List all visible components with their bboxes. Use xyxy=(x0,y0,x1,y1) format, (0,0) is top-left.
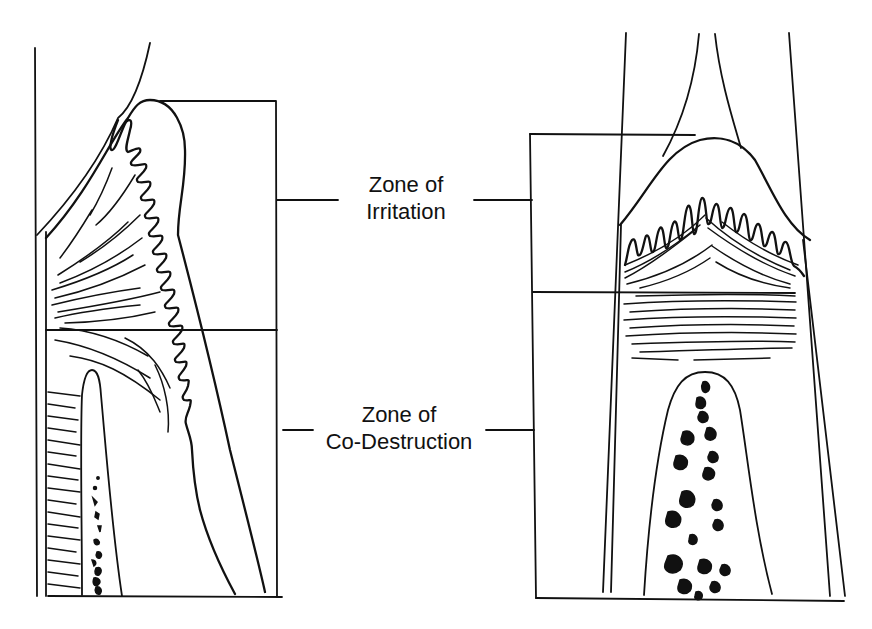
label-zone-of-codestruction: Zone of Co-Destruction xyxy=(326,401,473,455)
right-baseline xyxy=(536,598,844,601)
right-crestal-fibers xyxy=(624,295,796,361)
label-zone-of-irritation: Zone of Irritation xyxy=(366,171,445,225)
left-baseline xyxy=(48,596,282,597)
right-tooth-section xyxy=(536,33,845,601)
right-bone-marrow-specks xyxy=(665,382,730,600)
right-crown-right-curve xyxy=(715,34,741,148)
left-rete-ridge-line xyxy=(110,120,235,594)
right-tooth-left-surface xyxy=(603,33,626,592)
left-pdl-fibers xyxy=(48,392,80,588)
left-tooth-surface-line xyxy=(35,48,37,596)
left-crown-line xyxy=(37,43,150,235)
left-alveolar-bone xyxy=(81,370,122,596)
right-tooth-right-surface xyxy=(789,33,830,596)
label-codestruction-line2: Co-Destruction xyxy=(326,428,473,455)
label-irritation-line1: Zone of xyxy=(366,171,445,198)
right-zone-bracket xyxy=(474,134,795,598)
label-irritation-line2: Irritation xyxy=(366,198,445,225)
diagram-drawing xyxy=(0,0,872,629)
label-codestruction-line1: Zone of xyxy=(326,401,473,428)
left-bone-marrow-specks xyxy=(92,477,101,594)
left-tooth-section xyxy=(35,43,282,597)
diagram-canvas: Zone of Irritation Zone of Co-Destructio… xyxy=(0,0,872,629)
right-crown-left-curve xyxy=(663,34,699,156)
right-papilla-outline xyxy=(620,138,810,240)
